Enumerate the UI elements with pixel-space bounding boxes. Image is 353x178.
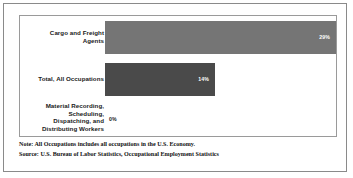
chart-plot-area: Cargo and Freight Agents 29% Total, All … <box>19 15 337 137</box>
chart-row-total-all-occupations: Total, All Occupations 14% <box>20 60 336 100</box>
chart-footer: Note: All Occupations includes all occup… <box>19 140 339 159</box>
bar-value-label-cargo-and-freight-agents: 29% <box>319 34 330 40</box>
bar-cargo-and-freight-agents: 29% <box>105 21 336 54</box>
bar-total-all-occupations: 14% <box>105 63 215 96</box>
bar-value-label-material-recording: 0% <box>109 116 117 122</box>
footer-source: Source: U.S. Bureau of Labor Statistics,… <box>19 150 339 160</box>
bar-value-label-total-all-occupations: 14% <box>198 76 209 82</box>
chart-row-cargo-and-freight-agents: Cargo and Freight Agents 29% <box>20 18 336 58</box>
category-label-cargo-and-freight-agents: Cargo and Freight Agents <box>22 29 104 44</box>
category-label-line: Cargo and Freight <box>22 29 104 37</box>
chart-outer-frame: Cargo and Freight Agents 29% Total, All … <box>3 3 347 172</box>
category-label-line: Distributing Workers <box>22 125 104 133</box>
chart-row-material-recording: Material Recording, Scheduling, Dispatch… <box>20 100 336 140</box>
category-label-line: Dispatching, and <box>22 117 104 125</box>
category-label-material-recording: Material Recording, Scheduling, Dispatch… <box>22 102 104 132</box>
category-label-line: Material Recording, <box>22 102 104 110</box>
category-label-total-all-occupations: Total, All Occupations <box>22 75 104 83</box>
category-label-line: Total, All Occupations <box>22 75 104 83</box>
footer-note: Note: All Occupations includes all occup… <box>19 140 339 150</box>
category-label-line: Agents <box>22 37 104 45</box>
category-label-line: Scheduling, <box>22 110 104 118</box>
